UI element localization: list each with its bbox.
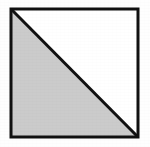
geometric-figure (0, 0, 150, 147)
figure-canvas: Square with diagonal, lower-left triangl… (0, 0, 150, 147)
